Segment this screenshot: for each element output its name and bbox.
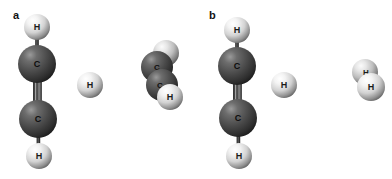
free-hydrogen-a: H xyxy=(77,72,103,98)
atom-label-c-lower: C xyxy=(35,114,42,124)
atom-label-h-cluster-bottom: H xyxy=(167,92,174,102)
panel-a-group: H C C H H C C H xyxy=(18,14,183,169)
atom-label-h-bottom: H xyxy=(36,151,43,161)
molecule-canvas: H C C H H C C H xyxy=(0,0,392,179)
free-hydrogen-b: H xyxy=(271,72,297,98)
panel-b-group: H C C H H H H xyxy=(218,17,385,169)
ethynyl-cluster-a: C C H xyxy=(141,40,183,110)
molecular-figure: H C C H H C C H xyxy=(0,0,392,179)
atom-label-c-upper-b: C xyxy=(234,61,241,71)
acetylene-b-bonds xyxy=(233,27,242,158)
atom-label-h-bottom-b: H xyxy=(236,151,243,161)
atom-label-h-free-b: H xyxy=(281,80,288,90)
atom-label-h-top: H xyxy=(34,22,41,32)
acetylene-a-bonds xyxy=(33,24,42,159)
dihydrogen-molecule-b: H H xyxy=(352,59,385,101)
atom-label-h-free: H xyxy=(87,80,94,90)
atom-label-c-upper: C xyxy=(34,59,41,69)
atom-label-c-lower-b: C xyxy=(235,113,242,123)
atom-label-h-top-b: H xyxy=(234,25,241,35)
panel-label-a: a xyxy=(13,10,19,21)
atom-label-h-h2-lower: H xyxy=(368,82,375,92)
panel-label-b: b xyxy=(209,10,216,21)
